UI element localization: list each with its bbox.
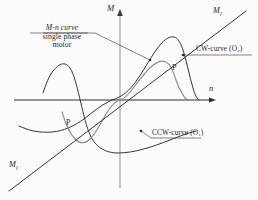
- load-line-label-top-base: M: [213, 6, 220, 15]
- load-line-label-bottom-subscript: l: [16, 165, 18, 171]
- n-axis-arrow: [209, 97, 216, 102]
- operating-point-label-lower: P: [66, 119, 71, 128]
- load-line-label-bottom: Ml: [9, 160, 18, 171]
- cw-curve-label: CW-curve (O₂): [196, 45, 242, 53]
- ccw-curve-label: CCW-curve (O₁): [152, 129, 203, 137]
- operating-point-label-upper: P: [172, 64, 177, 73]
- load-line-label-top: Ml: [213, 6, 222, 17]
- leader-dot-cw: [182, 54, 185, 57]
- m-axis-label: M: [107, 4, 114, 14]
- load-line-label-bottom-base: M: [9, 160, 16, 169]
- load-line-label-top-subscript: l: [220, 11, 222, 17]
- leader-dot-mn: [149, 59, 152, 62]
- mn-curve-annotation: M-n curve single phase motor: [31, 24, 93, 50]
- leader-dot-ccw: [140, 130, 143, 133]
- mn-curve-figure: M-n curve single phase motor CW-curve (O…: [0, 0, 258, 200]
- m-axis-arrow: [117, 9, 123, 16]
- n-axis-label: n: [209, 84, 213, 94]
- annotation-line-3: motor: [31, 41, 93, 50]
